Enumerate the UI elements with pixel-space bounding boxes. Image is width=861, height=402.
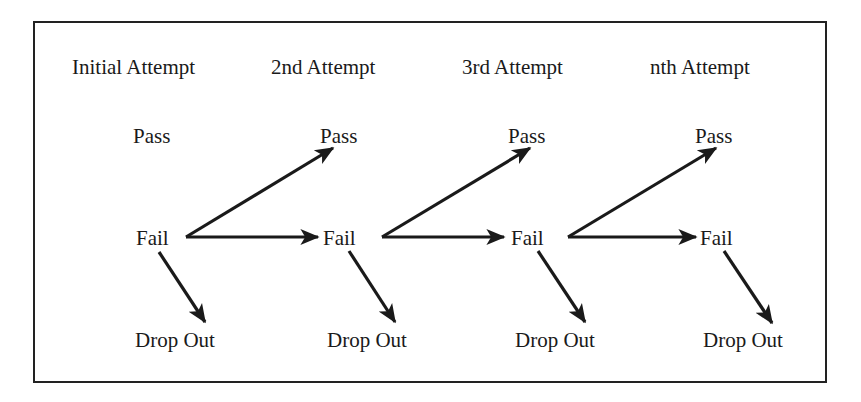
- arrow-fail1-to-dropout1-icon: [159, 252, 205, 322]
- arrow-fail2-to-dropout2-icon: [349, 251, 395, 322]
- arrow-fail3-to-dropout3-icon: [538, 251, 585, 322]
- arrows-layer: [0, 0, 861, 402]
- arrow-fail2-to-pass3-icon: [382, 148, 530, 237]
- arrow-fail3-to-pass4-icon: [568, 148, 716, 237]
- arrow-fail4-to-dropout4-icon: [724, 251, 772, 323]
- arrow-fail1-to-pass2-icon: [186, 148, 333, 237]
